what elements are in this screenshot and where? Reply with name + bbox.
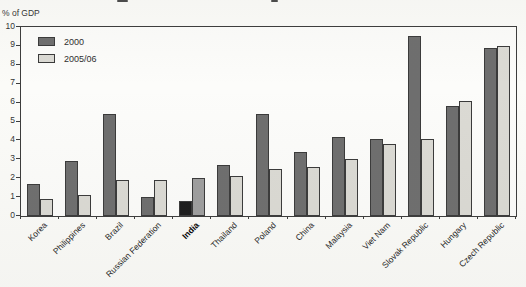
x-axis-label-thailand: Thailand [209, 220, 239, 250]
y-tick-mark [16, 121, 20, 122]
x-axis-label-poland: Poland [252, 220, 278, 246]
y-tick-label-0: 0 [0, 211, 15, 220]
bar-2000-korea [27, 184, 40, 216]
y-tick-label-10: 10 [0, 22, 15, 31]
bar-2000-china [294, 152, 307, 216]
bar-2005-06-china [307, 167, 320, 216]
bar-2005-06-viet-nam [383, 144, 396, 216]
x-tick-mark [58, 216, 59, 219]
legend-label-2000: 2000 [64, 37, 84, 47]
legend-item-2005-06: 2005/06 [38, 50, 97, 67]
x-tick-mark [477, 216, 478, 219]
y-tick-mark [16, 158, 20, 159]
y-tick-mark [16, 102, 20, 103]
cropped-title-fragment [117, 0, 128, 2]
bar-2000-russian-federation [141, 197, 154, 216]
legend-swatch-2000 [38, 37, 55, 46]
y-tick-label-9: 9 [0, 40, 15, 49]
y-tick-mark [16, 26, 20, 27]
bar-2005-06-poland [269, 169, 282, 216]
x-axis-label-viet-nam: Viet Nam [360, 220, 392, 252]
x-axis-label-china: China [293, 220, 316, 243]
x-axis-label-india: India [180, 220, 201, 241]
y-tick-label-5: 5 [0, 116, 15, 125]
bar-2000-czech-republic [484, 48, 497, 216]
y-tick-label-7: 7 [0, 78, 15, 87]
y-tick-label-4: 4 [0, 135, 15, 144]
x-tick-mark [210, 216, 211, 219]
bar-2005-06-korea [40, 199, 53, 216]
y-tick-mark [16, 83, 20, 84]
bar-2000-viet-nam [370, 139, 383, 216]
x-tick-mark [172, 216, 173, 219]
scanned-chart-page: % of GDP 2000 2005/06 012345678910 Korea… [0, 0, 526, 287]
y-tick-label-1: 1 [0, 192, 15, 201]
y-tick-mark [16, 64, 20, 65]
legend-swatch-2005-06 [38, 54, 55, 63]
bar-2005-06-czech-republic [497, 46, 510, 216]
x-axis-label-philippines: Philippines [51, 220, 87, 256]
x-tick-mark [401, 216, 402, 219]
x-tick-mark [134, 216, 135, 219]
y-tick-mark [16, 45, 20, 46]
bar-2005-06-philippines [78, 195, 91, 216]
legend-item-2000: 2000 [38, 33, 97, 50]
x-tick-mark [248, 216, 249, 219]
y-axis-unit-label: % of GDP [2, 8, 40, 18]
x-tick-mark [515, 216, 516, 219]
bar-2005-06-malaysia [345, 159, 358, 216]
x-tick-mark [96, 216, 97, 219]
bar-2000-india [179, 201, 192, 216]
y-tick-label-6: 6 [0, 97, 15, 106]
y-tick-label-8: 8 [0, 59, 15, 68]
legend-label-2005-06: 2005/06 [64, 54, 97, 64]
x-tick-mark [439, 216, 440, 219]
chart-legend: 2000 2005/06 [38, 33, 97, 67]
bar-2000-brazil [103, 114, 116, 216]
x-tick-mark [363, 216, 364, 219]
bar-2000-malaysia [332, 137, 345, 216]
bar-2000-thailand [217, 165, 230, 216]
x-axis-label-malaysia: Malaysia [323, 220, 354, 251]
x-axis-label-korea: Korea [26, 220, 49, 243]
bar-2005-06-india [192, 178, 205, 216]
x-tick-mark [287, 216, 288, 219]
bar-2000-hungary [446, 106, 459, 216]
x-axis-label-hungary: Hungary [438, 220, 468, 250]
y-tick-mark [16, 196, 20, 197]
plot-area: 2000 2005/06 [20, 26, 517, 217]
bar-2005-06-thailand [230, 176, 243, 216]
x-axis-label-brazil: Brazil [103, 220, 125, 242]
bar-2005-06-slovak-republic [421, 139, 434, 216]
bar-2000-poland [256, 114, 269, 216]
bar-2005-06-russian-federation [154, 180, 167, 216]
y-tick-mark [16, 139, 20, 140]
x-tick-mark [325, 216, 326, 219]
y-tick-mark [16, 177, 20, 178]
bar-2005-06-brazil [116, 180, 129, 216]
bar-2000-slovak-republic [408, 36, 421, 216]
x-tick-mark [20, 216, 21, 219]
cropped-title-fragment [271, 0, 278, 2]
bar-2005-06-hungary [459, 101, 472, 216]
y-tick-label-3: 3 [0, 154, 15, 163]
bar-2000-philippines [65, 161, 78, 216]
y-tick-label-2: 2 [0, 173, 15, 182]
